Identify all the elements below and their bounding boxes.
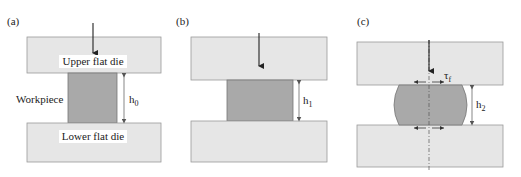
panel-b-label: (b)	[176, 15, 189, 28]
lower-flat-die	[191, 121, 327, 162]
upper-die-label: Upper flat die	[62, 55, 123, 67]
workpiece-label: Workpiece	[16, 93, 63, 105]
height-label-h2: h2	[476, 98, 486, 113]
lower-flat-die	[357, 125, 503, 167]
barreled-workpiece	[394, 85, 467, 125]
height-label-h0: h0	[129, 93, 139, 108]
panel-b: (b) h1	[176, 15, 327, 162]
upsetting-diagram: (a) Upper flat die Lower flat die Workpi…	[0, 0, 521, 177]
panel-a: (a) Upper flat die Lower flat die Workpi…	[7, 15, 161, 162]
workpiece	[227, 80, 293, 121]
lower-die-label: Lower flat die	[62, 130, 124, 142]
panel-c: (c) τf h2	[357, 15, 503, 171]
panel-a-label: (a)	[7, 15, 20, 28]
panel-c-label: (c)	[357, 15, 370, 28]
height-label-h1: h1	[303, 94, 313, 109]
workpiece	[68, 73, 117, 123]
upper-flat-die	[357, 42, 503, 85]
